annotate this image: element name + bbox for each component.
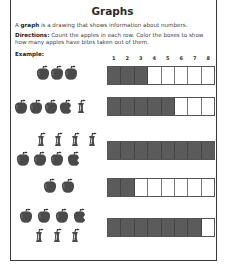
directions-text: Directions: Count the apples in each row… bbox=[15, 32, 215, 46]
count-bar bbox=[107, 218, 215, 237]
apple-core-icon bbox=[50, 227, 64, 244]
box-colored[interactable] bbox=[121, 142, 134, 159]
box-colored[interactable] bbox=[148, 98, 161, 115]
box-empty[interactable] bbox=[188, 67, 201, 84]
box-colored[interactable] bbox=[108, 98, 121, 115]
box-empty[interactable] bbox=[202, 219, 214, 236]
apple-core-icon bbox=[68, 131, 82, 148]
apple-icon bbox=[16, 150, 30, 167]
apple-icon bbox=[55, 207, 69, 224]
box-colored[interactable] bbox=[108, 142, 121, 159]
box-empty[interactable] bbox=[175, 98, 188, 115]
box-colored[interactable] bbox=[162, 98, 175, 115]
intro-keyword: graph bbox=[21, 22, 40, 28]
column-number: 8 bbox=[202, 55, 216, 63]
directions-label: Directions: bbox=[15, 32, 49, 38]
column-number: 2 bbox=[121, 55, 135, 63]
count-bar bbox=[107, 97, 215, 116]
apple-core-icon bbox=[68, 227, 82, 244]
box-colored[interactable] bbox=[188, 142, 201, 159]
box-colored[interactable] bbox=[121, 98, 134, 115]
bitten-apple-icon bbox=[67, 150, 81, 167]
apple-icon bbox=[19, 207, 33, 224]
column-number: 5 bbox=[161, 55, 175, 63]
count-bar bbox=[107, 66, 215, 85]
example-label: Example: bbox=[15, 51, 44, 57]
apple-icon bbox=[50, 150, 64, 167]
box-empty[interactable] bbox=[162, 179, 175, 196]
apple-icon bbox=[44, 98, 58, 115]
page-title: Graphs bbox=[0, 5, 225, 17]
apple-icon bbox=[64, 64, 78, 81]
box-empty[interactable] bbox=[188, 179, 201, 196]
count-bar bbox=[107, 141, 215, 160]
intro-text: A graph is a drawing that shows informat… bbox=[15, 22, 215, 28]
box-empty[interactable] bbox=[148, 67, 161, 84]
column-number: 3 bbox=[134, 55, 148, 63]
box-empty[interactable] bbox=[202, 179, 214, 196]
bitten-apple-icon bbox=[59, 98, 73, 115]
box-empty[interactable] bbox=[202, 98, 214, 115]
count-bar bbox=[107, 178, 215, 197]
column-numbers: 1 2 3 4 5 6 7 8 bbox=[107, 55, 215, 63]
column-number: 4 bbox=[148, 55, 162, 63]
box-empty[interactable] bbox=[175, 67, 188, 84]
box-colored[interactable] bbox=[135, 67, 148, 84]
box-colored[interactable] bbox=[135, 142, 148, 159]
apple-icon bbox=[14, 98, 28, 115]
box-colored[interactable] bbox=[135, 98, 148, 115]
box-colored[interactable] bbox=[121, 67, 134, 84]
box-colored[interactable] bbox=[202, 142, 214, 159]
box-colored[interactable] bbox=[121, 219, 134, 236]
box-empty[interactable] bbox=[175, 179, 188, 196]
box-empty[interactable] bbox=[162, 67, 175, 84]
box-colored[interactable] bbox=[108, 67, 121, 84]
box-colored[interactable] bbox=[148, 142, 161, 159]
box-empty[interactable] bbox=[188, 98, 201, 115]
apple-icon bbox=[37, 207, 51, 224]
box-colored[interactable] bbox=[108, 179, 121, 196]
box-colored[interactable] bbox=[121, 179, 134, 196]
apple-core-icon bbox=[51, 131, 65, 148]
box-colored[interactable] bbox=[148, 219, 161, 236]
box-colored[interactable] bbox=[175, 142, 188, 159]
box-colored[interactable] bbox=[108, 219, 121, 236]
intro-suffix: is a drawing that shows information abou… bbox=[39, 22, 187, 28]
box-colored[interactable] bbox=[188, 219, 201, 236]
apple-core-icon bbox=[85, 131, 99, 148]
apple-icon bbox=[50, 64, 64, 81]
apple-icon bbox=[61, 177, 75, 194]
apple-core-icon bbox=[74, 98, 88, 115]
column-number: 7 bbox=[188, 55, 202, 63]
apple-core-icon bbox=[32, 227, 46, 244]
apple-icon bbox=[36, 64, 50, 81]
apple-icon bbox=[29, 98, 43, 115]
bitten-apple-icon bbox=[73, 207, 87, 224]
apple-icon bbox=[43, 177, 57, 194]
apple-icon bbox=[33, 150, 47, 167]
box-empty[interactable] bbox=[135, 179, 148, 196]
box-colored[interactable] bbox=[135, 219, 148, 236]
box-empty[interactable] bbox=[148, 179, 161, 196]
box-empty[interactable] bbox=[202, 67, 214, 84]
box-colored[interactable] bbox=[175, 219, 188, 236]
box-colored[interactable] bbox=[162, 142, 175, 159]
apple-core-icon bbox=[34, 131, 48, 148]
column-number: 1 bbox=[107, 55, 121, 63]
box-colored[interactable] bbox=[162, 219, 175, 236]
column-number: 6 bbox=[175, 55, 189, 63]
